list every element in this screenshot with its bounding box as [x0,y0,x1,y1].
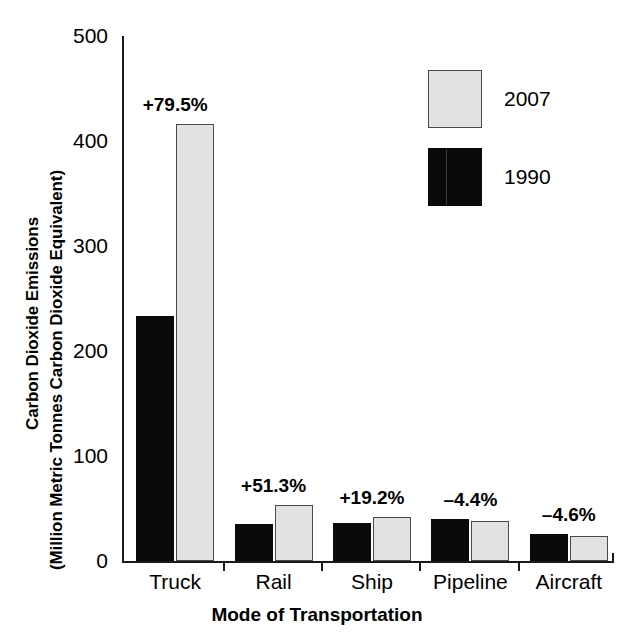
bar-chart: Carbon Dioxide Emissions (Million Metric… [0,0,634,638]
x-axis-title: Mode of Transportation [0,604,634,626]
legend-label-1990: 1990 [504,165,551,189]
y-tick-label-200: 200 [73,339,108,363]
y-tick-label-300: 300 [73,234,108,258]
y-tick-label-500: 500 [73,24,108,48]
legend-swatch-1990 [428,148,482,206]
legend-swatch-2007 [428,70,482,128]
bar-rail-1990 [235,524,273,561]
y-tick-label-400: 400 [73,129,108,153]
bar-aircraft-1990 [530,534,568,561]
x-tick-label-aircraft: Aircraft [536,570,603,594]
percent-change-label-truck: +79.5% [143,94,208,116]
percent-change-label-pipeline: –4.4% [443,489,497,511]
x-axis-tick-labels: TruckRailShipPipelineAircraft [122,570,614,600]
bar-ship-1990 [333,523,371,561]
bar-ship-2007 [373,517,411,561]
legend-item-1990: 1990 [428,148,551,206]
x-axis-end-cap [612,553,614,563]
bar-rail-2007 [275,505,313,561]
y-axis-line [122,36,124,563]
x-tick-label-rail: Rail [256,570,292,594]
percent-change-label-rail: +51.3% [241,475,306,497]
legend: 2007 1990 [428,70,618,215]
legend-item-2007: 2007 [428,70,551,128]
y-tick-label-100: 100 [73,444,108,468]
bar-pipeline-2007 [471,521,509,561]
legend-label-2007: 2007 [504,87,551,111]
bar-pipeline-1990 [431,519,469,561]
y-tick-label-0: 0 [96,549,108,573]
x-tick-label-pipeline: Pipeline [433,570,508,594]
x-tick-label-truck: Truck [149,570,201,594]
bar-group-ship [333,36,411,561]
y-axis-title-line-1: Carbon Dioxide Emissions [23,217,43,430]
y-axis-tick-labels: 0100200300400500 [58,36,116,563]
x-tick-label-ship: Ship [351,570,393,594]
y-axis-title: Carbon Dioxide Emissions (Million Metric… [0,0,62,580]
percent-change-label-ship: +19.2% [340,487,405,509]
bar-aircraft-2007 [570,536,608,561]
percent-change-label-aircraft: –4.6% [542,504,596,526]
bar-truck-2007 [176,124,214,561]
x-axis-line [122,561,614,563]
bar-truck-1990 [136,316,174,561]
